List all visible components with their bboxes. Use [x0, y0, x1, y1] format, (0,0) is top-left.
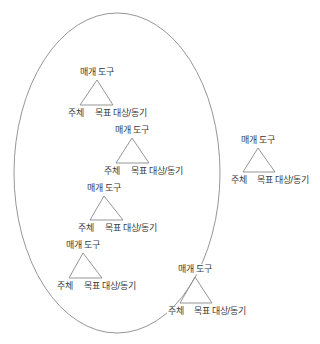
triangle-shape-2 — [116, 138, 149, 163]
object-label: 목표 대상/동기 — [83, 281, 137, 291]
tool-label: 매개 도구 — [114, 125, 149, 135]
triangle-shape-3 — [90, 196, 123, 220]
object-label: 목표 대상/동기 — [104, 223, 158, 233]
tool-label: 매개 도구 — [86, 183, 121, 193]
subject-label: 주체 — [103, 166, 120, 176]
triangle-shape-6 — [243, 148, 275, 172]
object-label: 목표 대상/동기 — [130, 166, 184, 176]
subject-label: 주체 — [77, 223, 94, 233]
object-label: 목표 대상/동기 — [193, 306, 247, 316]
tool-label: 매개 도구 — [65, 240, 100, 250]
object-label: 목표 대상/동기 — [94, 108, 148, 118]
tool-label: 매개 도구 — [240, 135, 275, 145]
triangle-shape-1 — [80, 80, 113, 105]
subject-label: 주체 — [167, 306, 184, 316]
subject-label: 주체 — [67, 108, 84, 118]
subject-label: 주체 — [56, 281, 73, 291]
subject-label: 주체 — [230, 175, 247, 185]
triangle-shape-5 — [180, 277, 212, 303]
tool-label: 매개 도구 — [177, 264, 212, 274]
object-label: 목표 대상/동기 — [256, 175, 310, 185]
tool-label: 매개 도구 — [79, 67, 114, 77]
triangle-shape-4 — [69, 253, 102, 278]
